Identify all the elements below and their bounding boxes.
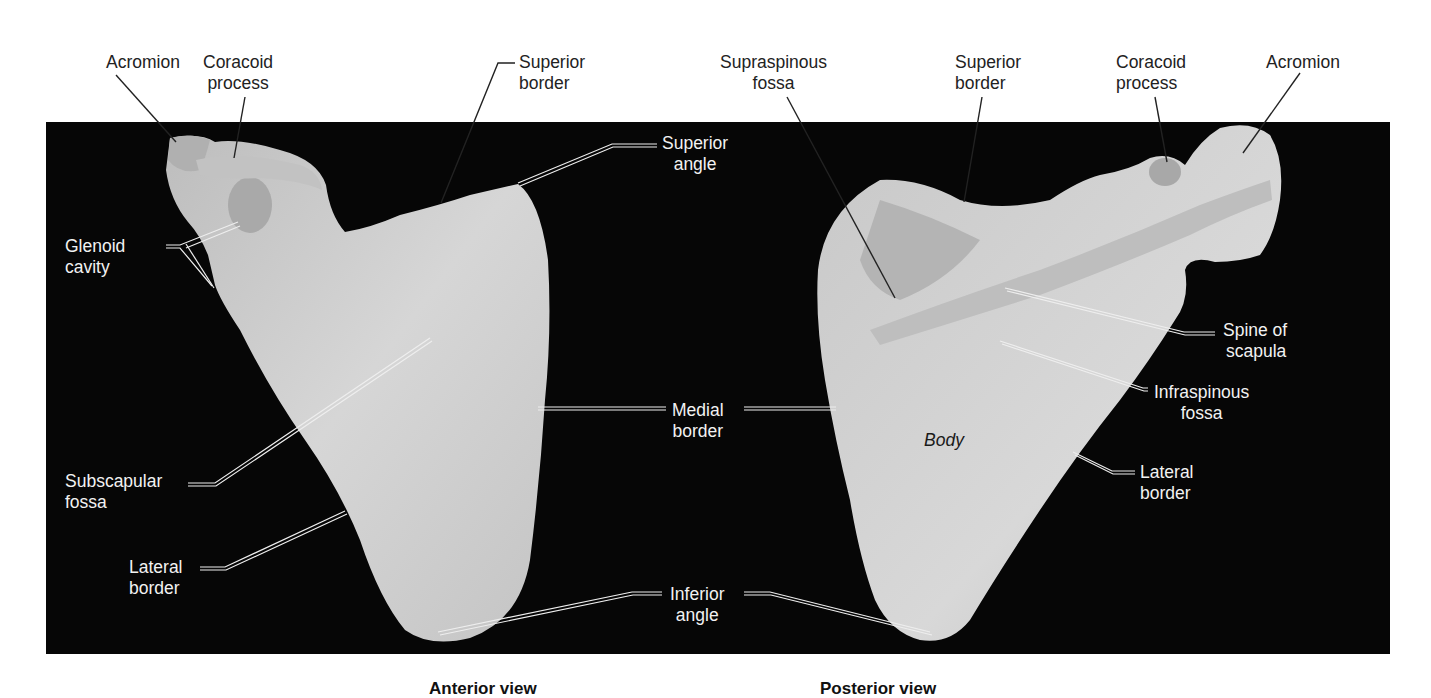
label-posterior-lateral-border: Lateral border bbox=[1140, 462, 1194, 504]
label-body: Body bbox=[924, 430, 964, 451]
label-subscapular-fossa: Subscapular fossa bbox=[65, 471, 162, 513]
label-anterior-coracoid-process: Coracoid process bbox=[203, 52, 273, 94]
label-superior-angle: Superior angle bbox=[662, 133, 728, 175]
label-anterior-superior-border: Superior border bbox=[519, 52, 585, 94]
label-medial-border: Medial border bbox=[672, 400, 724, 442]
label-spine-of-scapula: Spine of scapula bbox=[1223, 320, 1287, 362]
label-anterior-acromion: Acromion bbox=[106, 52, 180, 73]
label-posterior-acromion: Acromion bbox=[1266, 52, 1340, 73]
label-posterior-coracoid-process: Coracoid process bbox=[1116, 52, 1186, 94]
scapula-figure: Acromion Coracoid process Superior borde… bbox=[0, 0, 1431, 698]
anterior-scapula bbox=[166, 135, 549, 641]
label-supraspinous-fossa: Supraspinous fossa bbox=[720, 52, 827, 94]
caption-posterior-view: Posterior view bbox=[820, 679, 936, 698]
caption-anterior-view: Anterior view bbox=[429, 679, 537, 698]
label-infraspinous-fossa: Infraspinous fossa bbox=[1154, 382, 1249, 424]
label-inferior-angle: Inferior angle bbox=[670, 584, 724, 626]
label-glenoid-cavity: Glenoid cavity bbox=[65, 236, 125, 278]
label-anterior-lateral-border: Lateral border bbox=[129, 557, 183, 599]
label-posterior-superior-border: Superior border bbox=[955, 52, 1021, 94]
